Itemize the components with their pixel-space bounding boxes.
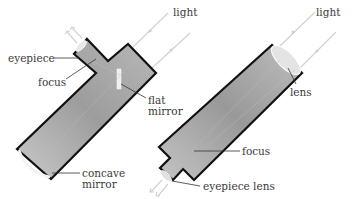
telescope-diagram (0, 0, 352, 199)
label-focus-refractor: focus (242, 146, 270, 156)
label-lens: lens (290, 87, 312, 97)
flat-mirror (117, 69, 121, 89)
label-concave-mirror-line1: concave (82, 168, 125, 178)
label-light-refractor: light (316, 7, 340, 17)
label-light-reflector: light (173, 7, 197, 17)
eyepiece-light-left (65, 27, 82, 43)
label-concave-mirror-line2: mirror (82, 179, 117, 189)
eyepiece-light-right (150, 180, 168, 196)
label-flat-mirror-line1: flat (148, 95, 165, 105)
refracting-telescope (150, 12, 336, 196)
label-eyepiece-lens: eyepiece lens (203, 181, 275, 191)
label-focus-reflector: focus (38, 77, 66, 87)
label-eyepiece: eyepiece (8, 53, 55, 63)
label-flat-mirror-line2: mirror (148, 106, 183, 116)
